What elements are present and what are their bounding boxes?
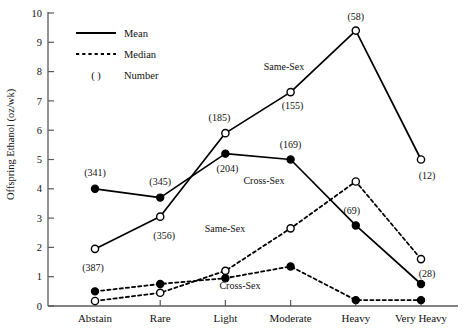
x-axis-labels: AbstainRareLightModerateHeavyVery Heavy [78,312,448,324]
legend-number-label: Number [124,70,159,81]
x-tick-label-very-heavy: Very Heavy [395,312,448,324]
y-axis-title-text: Offspring Ethanol (oz/wk) [5,88,17,200]
x-tick-label-abstain: Abstain [78,312,113,324]
y-tick-label: 6 [37,125,42,136]
y-tick-label: 5 [37,154,42,165]
x-tick-label-heavy: Heavy [341,312,370,324]
data-point [91,297,98,304]
x-tick-label-rare: Rare [150,312,171,324]
data-point [222,150,229,157]
annotation-same-sex-median: Same-Sex [205,223,246,234]
x-tick-label-light: Light [213,312,237,324]
y-axis-ticks: 012345678910 [32,8,55,312]
series-layer [91,27,424,305]
count-label: (69) [343,205,360,217]
y-tick-label: 3 [37,213,42,224]
count-label: (204) [217,163,239,175]
data-point [157,194,164,201]
data-point [91,245,98,252]
count-label: (169) [280,139,302,151]
data-point [417,280,424,287]
data-point [417,156,424,163]
data-point [352,178,359,185]
data-point [157,213,164,220]
legend-number-paren-icon: ( ) [91,70,101,82]
line-chart-svg: Offspring Ethanol (oz/wk) 012345678910 A… [0,0,462,332]
data-point [222,130,229,137]
data-point [417,256,424,263]
y-tick-label: 0 [37,301,42,312]
y-tick-label: 10 [32,8,43,19]
legend-median-label: Median [124,49,157,60]
count-label: (28) [419,268,436,280]
y-tick-label: 7 [37,96,42,107]
y-axis-title: Offspring Ethanol (oz/wk) [5,88,17,200]
data-point [287,263,294,270]
annotation-cross-sex-median: Cross-Sex [219,280,260,291]
count-label: (356) [153,230,175,242]
data-point [352,297,359,304]
legend-mean-label: Mean [124,28,149,39]
count-label: (345) [149,176,171,188]
data-point [287,156,294,163]
data-point [157,289,164,296]
chart-container: Offspring Ethanol (oz/wk) 012345678910 A… [0,0,462,332]
count-label: (387) [82,262,104,274]
annotation-cross-sex-mean: Cross-Sex [243,175,284,186]
count-label: (185) [209,112,231,124]
data-point [157,280,164,287]
data-point [352,27,359,34]
count-label: (155) [282,100,304,112]
data-point [222,267,229,274]
data-point [91,288,98,295]
y-tick-label: 9 [37,37,42,48]
data-point [91,185,98,192]
count-label: (58) [347,11,364,23]
data-point [287,89,294,96]
data-point [417,297,424,304]
legend: Mean Median ( ) Number [76,28,159,82]
x-tick-label-moderate: Moderate [270,312,312,324]
series-line-cross-sex-mean [95,154,421,284]
y-tick-label: 8 [37,66,42,77]
y-tick-label: 2 [37,242,42,253]
count-label: (341) [84,167,106,179]
y-tick-label: 4 [37,183,43,194]
annotation-same-sex-mean: Same-Sex [264,61,305,72]
y-tick-label: 1 [37,271,42,282]
count-label: (12) [419,170,436,182]
series-line-same-sex-mean [95,31,421,249]
data-point [352,222,359,229]
data-point [287,225,294,232]
